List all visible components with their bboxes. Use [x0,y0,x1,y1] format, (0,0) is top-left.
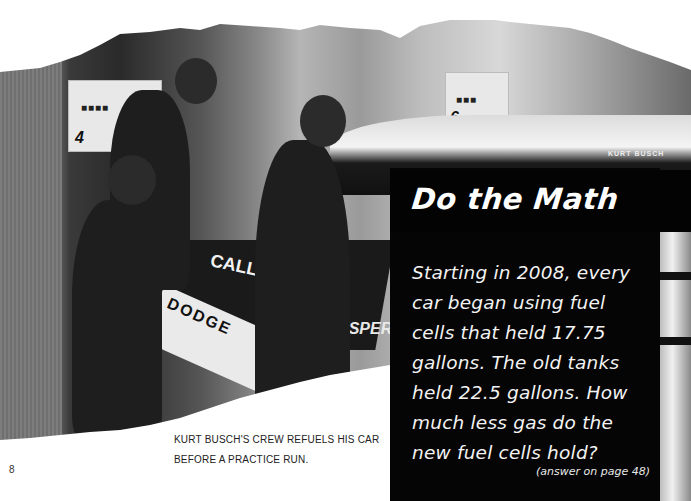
question-line: held 22.5 gallons. How [412,378,652,408]
strip-band [660,337,691,345]
driver-name-decal: KURT BUSCH [608,150,664,157]
sign-boxes: ■■■■ [81,103,109,114]
torn-paper-top-edge [0,0,691,100]
torn-paper-bottom-edge [0,340,400,501]
book-page: ■■■■ 4 ■■■ 6 KURT BUSCH DODGE CALL YSPER [0,0,691,501]
answer-reference: (answer on page 48) [536,465,650,478]
question-line: cells that held 17.75 [412,318,652,348]
caption-line: BEFORE A PRACTICE RUN. [174,450,399,470]
question-line: car began using fuel [412,288,652,318]
sign-number: 4 [75,129,84,147]
question-line: gallons. The old tanks [412,348,652,378]
question-line: new fuel cells hold? [412,438,652,468]
strip-band [660,272,691,280]
sidebar-title: Do the Math [410,182,620,216]
sidebar-question: Starting in 2008, every car began using … [412,258,652,468]
photo-caption: KURT BUSCH'S CREW REFUELS HIS CAR BEFORE… [174,430,399,470]
page-number: 8 [9,464,15,475]
question-line: much less gas do the [412,408,652,438]
photo-edge-strip [660,232,691,501]
crew-head-3 [300,95,346,147]
question-line: Starting in 2008, every [412,258,652,288]
caption-line: KURT BUSCH'S CREW REFUELS HIS CAR [174,430,399,450]
crew-head-2 [108,155,156,205]
